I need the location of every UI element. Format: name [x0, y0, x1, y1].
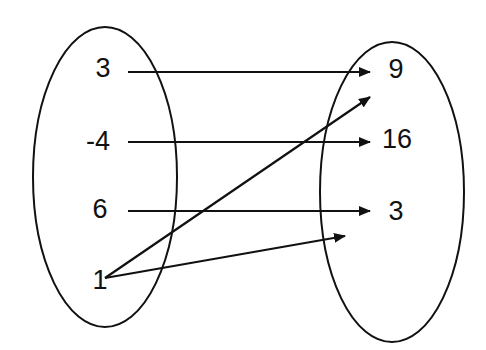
range-element-9: 9	[388, 54, 403, 84]
arrow-1-right	[105, 236, 345, 278]
mapping-diagram: 3 -4 6 1 9 16 3	[0, 0, 486, 350]
range-element-16: 16	[382, 124, 412, 154]
range-ellipse	[320, 42, 464, 342]
range-element-3: 3	[388, 196, 403, 226]
arrow-1-up	[105, 97, 370, 278]
domain-element-neg4: -4	[86, 126, 110, 156]
diagram-canvas: 3 -4 6 1 9 16 3	[0, 0, 486, 350]
domain-element-6: 6	[92, 194, 107, 224]
domain-element-3: 3	[95, 53, 110, 83]
domain-element-1: 1	[92, 265, 107, 295]
